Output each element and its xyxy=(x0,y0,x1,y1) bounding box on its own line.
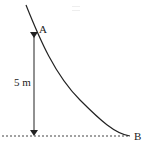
point-b-label: B xyxy=(134,130,141,142)
height-label: 5 m xyxy=(14,76,31,88)
point-a-label: A xyxy=(39,23,47,35)
diagram-svg: A 5 m B xyxy=(0,0,149,148)
